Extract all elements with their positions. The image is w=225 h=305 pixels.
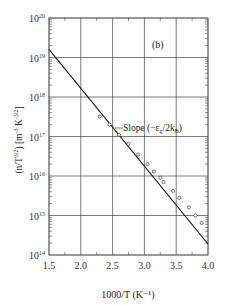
- data-point: [171, 189, 174, 192]
- slope-annotation: Slope (−εg/2kB): [115, 123, 182, 134]
- data-point: [162, 181, 165, 184]
- grid-lines: [49, 18, 208, 255]
- chart: 1.52.02.53.03.54.0 102010191018101710161…: [0, 0, 225, 305]
- x-tick-label: 2.0: [75, 260, 88, 271]
- fit-line: [49, 49, 208, 244]
- panel-label: (b): [152, 39, 164, 51]
- y-tick-label: 1018: [29, 92, 45, 103]
- y-tick-label: 1020: [29, 13, 45, 24]
- data-point: [136, 153, 139, 156]
- y-tick-label: 1017: [29, 132, 45, 143]
- x-axis-label: 1000/T (K⁻¹): [101, 289, 154, 301]
- y-tick-label: 1016: [29, 171, 45, 182]
- data-point: [200, 221, 203, 224]
- x-tick-label: 2.5: [106, 260, 119, 271]
- data-point: [108, 123, 111, 126]
- data-point: [146, 163, 149, 166]
- data-series: [49, 49, 208, 244]
- x-tick-labels: 1.52.02.53.03.54.0: [43, 260, 215, 271]
- y-axis-label: (n/T3/2) [m-3 K-3/2]: [13, 106, 25, 173]
- data-point: [152, 170, 155, 173]
- data-point: [127, 142, 130, 145]
- y-tick-label: 1015: [29, 211, 45, 222]
- slope-label: Slope (−εg/2kB): [123, 123, 182, 134]
- x-tick-label: 1.5: [43, 260, 56, 271]
- data-point: [98, 115, 101, 118]
- x-tick-label: 4.0: [202, 260, 215, 271]
- data-point: [178, 196, 181, 199]
- data-point: [117, 133, 120, 136]
- data-point: [159, 176, 162, 179]
- data-point: [194, 214, 197, 217]
- x-tick-label: 3.5: [170, 260, 183, 271]
- x-tick-label: 3.0: [138, 260, 151, 271]
- data-point: [187, 206, 190, 209]
- y-tick-labels: 1020101910181017101610151014: [29, 13, 45, 261]
- svg-text:(n/T3/2) [m-3 K-3/2]: (n/T3/2) [m-3 K-3/2]: [13, 106, 25, 173]
- y-tick-label: 1019: [29, 53, 45, 64]
